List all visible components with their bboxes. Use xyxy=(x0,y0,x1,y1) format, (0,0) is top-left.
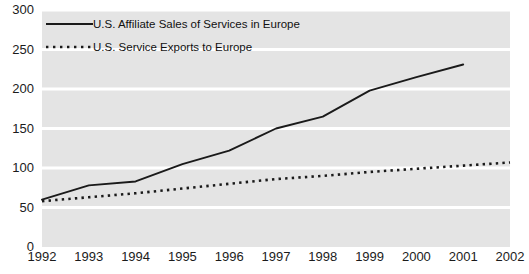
x-axis-tick-label: 2000 xyxy=(393,250,439,263)
x-axis-tick-label: 1996 xyxy=(206,250,252,263)
x-axis-tick-label: 1998 xyxy=(300,250,346,263)
x-axis-tick-label: 1992 xyxy=(19,250,65,263)
x-axis-tick-label: 1994 xyxy=(113,250,159,263)
x-axis-tick-label: 1993 xyxy=(66,250,112,263)
x-axis-tick-label: 2001 xyxy=(440,250,486,263)
y-axis-tick-label: 100 xyxy=(0,161,34,174)
x-axis-tick-label: 1995 xyxy=(159,250,205,263)
y-axis-tick-label: 200 xyxy=(0,82,34,95)
y-axis-tick-label: 150 xyxy=(0,122,34,135)
y-axis-tick-label: 250 xyxy=(0,43,34,56)
y-axis-tick-label: 300 xyxy=(0,3,34,16)
x-axis-tick-label: 1997 xyxy=(253,250,299,263)
x-axis-tick-label: 2002 xyxy=(487,250,529,263)
y-axis-tick-label: 50 xyxy=(0,201,34,214)
x-axis-tick-label: 1999 xyxy=(347,250,393,263)
legend-item-service-exports: U.S. Service Exports to Europe xyxy=(93,41,252,53)
legend-item-affiliate-sales: U.S. Affiliate Sales of Services in Euro… xyxy=(93,18,300,30)
